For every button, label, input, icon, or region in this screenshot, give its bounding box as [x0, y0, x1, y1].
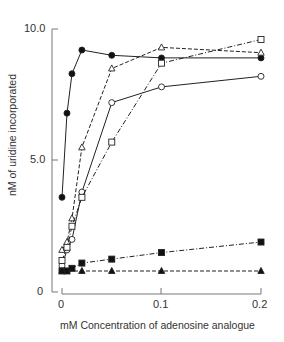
series-line [62, 50, 261, 197]
data-point-open-square-marker [258, 37, 264, 43]
data-point-filled-circle-marker [258, 55, 264, 61]
y-tick-label-5: 5.0 [30, 153, 45, 165]
y-axis-label: nM of uridine incorporated [6, 74, 18, 196]
data-point-filled-square-marker [109, 256, 115, 262]
series-open-squares [59, 37, 264, 264]
data-point-open-triangle-marker [109, 65, 115, 71]
data-point-open-square-marker [109, 139, 115, 145]
data-point-filled-square-marker [159, 250, 165, 256]
data-point-open-circle-marker [258, 73, 264, 79]
data-point-open-circle-marker [159, 84, 165, 90]
series-open-triangles [59, 44, 264, 253]
data-point-filled-triangle-marker [158, 267, 164, 273]
x-tick-label-0: 0 [58, 298, 64, 310]
data-point-filled-circle-marker [109, 52, 115, 58]
data-point-open-triangle-marker [79, 144, 85, 150]
x-axis-label: mM Concentration of adenosine analogue [60, 319, 255, 331]
data-point-filled-square-marker [69, 265, 75, 271]
data-point-filled-triangle-marker [79, 267, 85, 273]
series-filled-triangles [59, 267, 264, 273]
series-line [62, 76, 261, 265]
y-tick-label-10: 10.0 [24, 22, 45, 34]
data-point-open-square-marker [59, 257, 65, 263]
data-point-filled-square-marker [258, 239, 264, 245]
data-point-open-square-marker [159, 60, 165, 66]
data-point-open-triangle-marker [158, 44, 164, 50]
series-open-circles [59, 73, 264, 268]
data-point-filled-square-marker [79, 260, 85, 266]
data-point-open-triangle-marker [258, 49, 264, 55]
data-point-open-square-marker [69, 223, 75, 229]
axes [52, 29, 261, 294]
plot-area [59, 37, 264, 274]
data-point-open-circle-marker [109, 100, 115, 106]
x-tick-label-0.1: 0.1 [153, 298, 168, 310]
y-tick-label-0: 0 [37, 285, 43, 297]
data-point-open-square-marker [64, 244, 70, 250]
data-point-filled-circle-marker [79, 47, 85, 53]
x-tick-label-0.2: 0.2 [252, 298, 267, 310]
data-point-filled-triangle-marker [258, 267, 264, 273]
series-line [62, 40, 261, 261]
series-line [62, 47, 261, 250]
data-point-open-square-marker [79, 194, 85, 200]
data-point-filled-circle-marker [69, 71, 75, 77]
data-point-filled-triangle-marker [109, 267, 115, 273]
series-filled-circles [59, 47, 264, 200]
data-point-filled-circle-marker [64, 110, 70, 116]
data-point-filled-circle-marker [59, 194, 65, 200]
